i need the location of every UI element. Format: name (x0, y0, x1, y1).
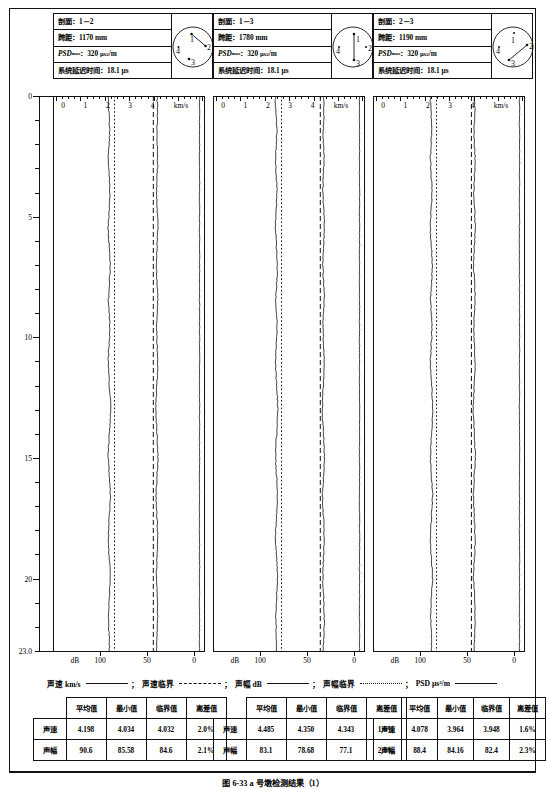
panel-header-2-3: 剖面：2－3 跨距：1190 mm PSDmax：320 μs2/m 系统延迟时… (373, 13, 533, 79)
cell-avg: 4.198 (66, 719, 106, 740)
svg-text:2: 2 (529, 42, 533, 51)
header-average: 平均值 (246, 698, 286, 719)
sensor-diagram-2-3: 1 2 3 4 (491, 13, 533, 79)
span-label: 跨距： (378, 34, 399, 41)
velocity-tick (320, 96, 321, 99)
info-box-2-3: 剖面：2－3 跨距：1190 mm PSDmax：320 μs2/m 系统延迟时… (373, 13, 491, 79)
velocity-tick (141, 96, 142, 99)
amplitude-tick-label: 100 (254, 656, 265, 665)
amplitude-curve (275, 96, 278, 651)
summary-table-1-2: 平均值 最小值 临界值 离差值 声速 4.198 4.034 4.032 2.0… (33, 697, 227, 761)
velocity-tick (437, 96, 438, 99)
velocity-tick-label: 1 (404, 101, 408, 110)
header-critical: 临界值 (146, 698, 186, 719)
legend-separator: ； (405, 678, 413, 689)
svg-text:3: 3 (356, 59, 360, 68)
row-label-velocity: 声速 (214, 719, 247, 740)
cell-crit: 84.6 (146, 740, 186, 761)
delay-row: 系统延迟时间：18.1 μs (374, 63, 491, 78)
velocity-tick (419, 96, 420, 99)
psd-unit-tail: /m (269, 50, 277, 57)
amplitude-tick-label: 50 (143, 656, 151, 665)
span-row: 跨距：1170 mm (54, 30, 171, 46)
velocity-tick (172, 96, 173, 99)
svg-text:1: 1 (511, 36, 515, 45)
depth-tick (35, 144, 39, 145)
velocity-axis-unit: km/s (174, 101, 189, 110)
legend-swatch-dashed (179, 683, 221, 684)
psd-colon: ： (80, 50, 87, 57)
header-average: 平均值 (66, 698, 106, 719)
legend-item-velocity: 声速 km/s ； (47, 678, 142, 689)
psd-value: 320 (247, 50, 258, 57)
velocity-tick (117, 96, 118, 99)
header-minimum: 最小值 (286, 698, 326, 719)
velocity-tick (93, 96, 94, 99)
velocity-label-row: 01234km/s (53, 101, 205, 111)
delay-label: 系统延迟时间： (58, 67, 107, 74)
cell-avg: 88.4 (402, 740, 438, 761)
velocity-tick (190, 96, 191, 99)
depth-tick (33, 217, 39, 218)
amplitude-axis-unit: dB (391, 656, 400, 665)
velocity-tick (277, 96, 278, 99)
svg-text:4: 4 (176, 47, 180, 56)
legend-item-amplitude-critical: 声幅临界 ； (323, 678, 416, 689)
psd-value: 320 (87, 50, 98, 57)
panel-headers: 剖面：1－2 跨距：1170 mm PSDmax：320 μs2/m 系统延迟时… (0, 0, 546, 86)
amplitude-tick-label: 100 (414, 656, 425, 665)
span-value: 1170 mm (79, 34, 107, 41)
velocity-tick (308, 96, 309, 99)
depth-tick (35, 530, 39, 531)
legend-label: 声速临界 (142, 678, 174, 689)
corner-cell (214, 698, 247, 719)
legend-separator: ； (131, 678, 139, 689)
legend-label: 声速 km/s (47, 678, 81, 689)
velocity-tick-label: 1 (84, 101, 88, 110)
velocity-tick (356, 96, 357, 99)
span-label: 跨距： (218, 34, 239, 41)
header-deviation: 离差值 (509, 698, 545, 719)
amplitude-curve (108, 96, 111, 651)
psd-row: PSDmax：320 μs2/m (214, 47, 331, 63)
depth-tick (35, 410, 39, 411)
panel-header-1-2: 剖面：1－2 跨距：1170 mm PSDmax：320 μs2/m 系统延迟时… (53, 13, 213, 79)
amplitude-tick-label: 0 (512, 656, 516, 665)
header-average: 平均值 (402, 698, 438, 719)
figure-page: 剖面：1－2 跨距：1170 mm PSDmax：320 μs2/m 系统延迟时… (0, 0, 546, 789)
section-value: 1－3 (239, 18, 253, 25)
svg-text:4: 4 (496, 47, 500, 56)
section-label: 剖面： (218, 18, 239, 25)
velocity-tick (135, 96, 136, 99)
section-row: 剖面：1－2 (54, 14, 171, 30)
corner-cell (374, 698, 402, 719)
chart-panel-1-3 (213, 96, 365, 651)
span-value: 1780 mm (239, 34, 268, 41)
cell-min: 3.964 (438, 719, 474, 740)
psd-curve (359, 96, 360, 651)
legend-swatch-solid (267, 683, 309, 684)
legend-separator: ； (312, 678, 320, 689)
velocity-tick (166, 96, 167, 99)
velocity-tick (160, 96, 161, 99)
delay-label: 系统延迟时间： (378, 67, 427, 74)
svg-text:1: 1 (190, 35, 194, 44)
svg-text:2: 2 (207, 43, 211, 52)
table-header-row: 平均值 最小值 临界值 离差值 (374, 698, 546, 719)
depth-tick (35, 361, 39, 362)
depth-tick (35, 168, 39, 169)
sensor-diagram-1-3: 1 2 3 4 (331, 13, 373, 79)
cell-crit: 4.032 (146, 719, 186, 740)
depth-label: 0 (0, 92, 32, 101)
depth-tick (35, 627, 39, 628)
velocity-tick-label: 1 (244, 101, 248, 110)
svg-text:3: 3 (191, 58, 195, 67)
span-value: 1190 mm (399, 34, 427, 41)
cell-avg: 4.485 (246, 719, 286, 740)
velocity-tick (295, 96, 296, 99)
svg-text:1: 1 (356, 35, 360, 44)
velocity-axis-unit: km/s (494, 101, 509, 110)
amplitude-label-row: dB100500 (373, 656, 525, 668)
legend-label: PSD μs²/m (416, 679, 450, 688)
velocity-tick-label: 0 (61, 101, 65, 110)
